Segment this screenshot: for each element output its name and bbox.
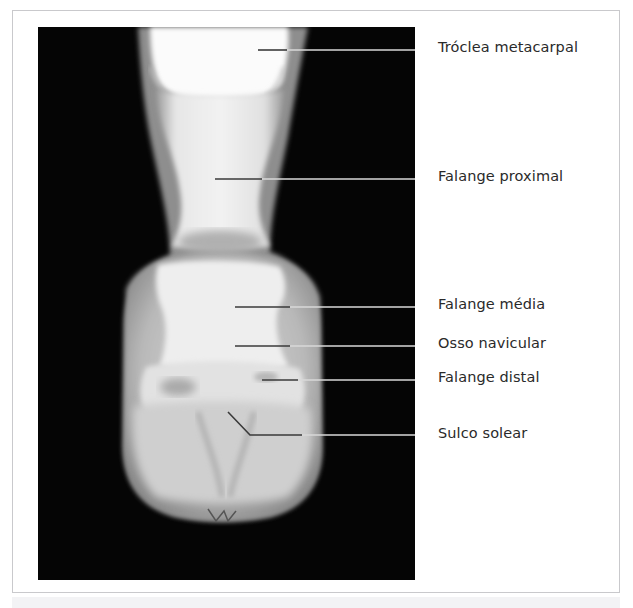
label-falange-media: Falange média: [438, 295, 545, 313]
label-troclea-metacarpal: Tróclea metacarpal: [438, 38, 578, 56]
label-sulco-solear: Sulco solear: [438, 424, 527, 442]
leader-dark-sulco-solear: [228, 412, 302, 435]
label-falange-distal: Falange distal: [438, 368, 540, 386]
label-osso-navicular: Osso navicular: [438, 334, 546, 352]
label-falange-proximal: Falange proximal: [438, 167, 563, 185]
